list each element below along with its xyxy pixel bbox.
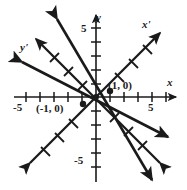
y-tick-label-neg5: -5	[74, 155, 83, 166]
point-origin	[93, 94, 99, 100]
x-tick-label-neg5: -5	[13, 102, 22, 113]
x-prime-axis-label: x'	[142, 19, 151, 30]
x-axis-label: x	[167, 77, 173, 88]
point-label-neg1-0: (-1, 0)	[36, 103, 64, 114]
y-axis-label: y	[96, 12, 101, 23]
graph-canvas	[0, 0, 187, 190]
y-prime-axis-label: y'	[20, 42, 28, 53]
x-tick-label-5: 5	[148, 102, 154, 113]
point-marker-neg1-0	[80, 101, 86, 107]
y-tick-label-5: 5	[81, 23, 87, 34]
point-label-1-0: (1, 0)	[108, 80, 132, 91]
math-graph-figure: y x x' y' -5 5 5 -5 (1, 0) (-1, 0)	[0, 0, 187, 190]
